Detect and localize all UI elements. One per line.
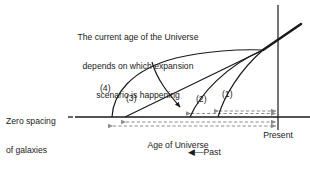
curve-2-label: (2): [196, 95, 207, 105]
present-label: Present: [252, 131, 304, 141]
curve-3-label: (3): [126, 94, 137, 104]
caption-line-2: depends on which expansion: [58, 62, 218, 72]
caption-line-3: scenario is happening: [58, 91, 218, 101]
curve-4-label: (4): [100, 84, 111, 94]
figure-caption: The current age of the Universe depends …: [58, 14, 218, 120]
curve-1-label: (1): [222, 90, 233, 100]
expansion-scenarios-figure: The current age of the Universe depends …: [0, 0, 310, 169]
caption-line-1: The current age of the Universe: [58, 33, 218, 43]
age-line-1: Age of Universe: [116, 141, 240, 151]
past-direction-label: ◀—Past: [188, 148, 221, 158]
zero-spacing-line-1: Zero spacing: [6, 117, 78, 127]
curve-1-path: [218, 50, 263, 117]
future-expansion-line: [263, 24, 301, 50]
zero-spacing-line-2: of galaxies: [6, 146, 78, 156]
zero-spacing-label: Zero spacing of galaxies (i.e. Big Bang): [6, 98, 78, 169]
age-of-universe-label: Age of Universe (time from Big Bang to n…: [116, 122, 240, 169]
